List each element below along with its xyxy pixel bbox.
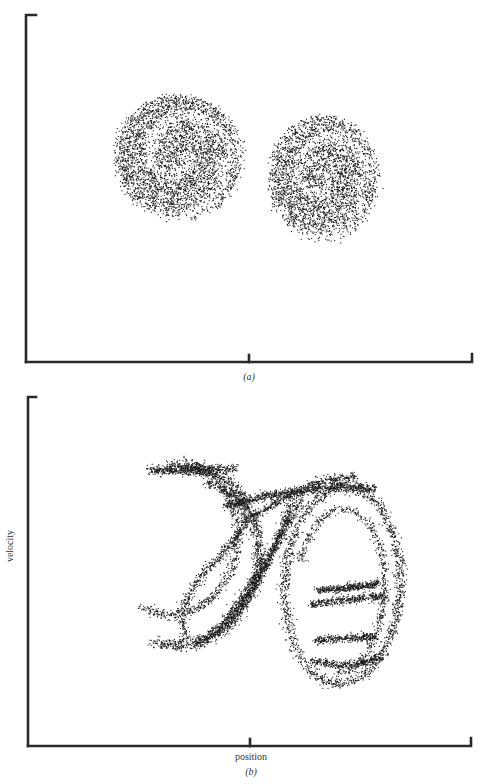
data-point-a: [285, 195, 286, 196]
data-point-a: [193, 114, 194, 115]
data-point-a: [349, 212, 350, 213]
data-point-b: [230, 510, 231, 511]
data-point-a: [162, 94, 163, 95]
data-point-b: [187, 463, 188, 464]
data-point-b: [336, 601, 337, 602]
data-point-a: [171, 161, 172, 162]
data-point-b: [222, 625, 223, 626]
data-point-b: [359, 582, 360, 583]
data-point-b: [262, 544, 263, 545]
data-point-b: [286, 495, 287, 496]
data-point-b: [299, 558, 300, 559]
data-point-b: [385, 615, 386, 616]
data-point-b: [229, 547, 230, 548]
data-point-a: [163, 155, 164, 156]
data-point-a: [163, 157, 164, 158]
data-point-b: [253, 583, 254, 584]
data-point-b: [295, 656, 296, 657]
data-point-a: [328, 143, 329, 144]
data-point-a: [201, 147, 202, 148]
data-point-a: [143, 206, 144, 207]
data-point-a: [194, 182, 195, 183]
data-point-b: [303, 668, 304, 669]
data-point-b: [308, 506, 309, 507]
data-point-a: [306, 192, 307, 193]
data-point-a: [272, 193, 273, 194]
data-point-b: [337, 592, 338, 593]
data-point-a: [343, 124, 344, 125]
data-point-a: [350, 221, 351, 222]
data-point-a: [227, 144, 228, 145]
data-point-a: [115, 138, 116, 139]
data-point-a: [348, 173, 349, 174]
data-point-a: [277, 163, 278, 164]
data-point-a: [155, 191, 156, 192]
data-point-a: [121, 148, 122, 149]
data-point-a: [202, 211, 203, 212]
data-point-b: [326, 514, 327, 515]
data-point-a: [372, 199, 373, 200]
data-point-b: [343, 478, 344, 479]
data-point-b: [368, 635, 369, 636]
data-point-b: [196, 476, 197, 477]
data-point-a: [189, 175, 190, 176]
data-point-b: [355, 669, 356, 670]
data-point-a: [304, 123, 305, 124]
data-point-a: [274, 173, 275, 174]
data-point-b: [357, 478, 358, 479]
data-point-b: [362, 599, 363, 600]
data-point-b: [230, 579, 231, 580]
data-point-b: [359, 490, 360, 491]
data-point-a: [278, 180, 279, 181]
data-point-a: [199, 121, 200, 122]
data-point-a: [149, 188, 150, 189]
data-point-b: [375, 550, 376, 551]
data-point-b: [237, 615, 238, 616]
data-point-a: [375, 179, 376, 180]
data-point-a: [138, 129, 139, 130]
data-point-b: [235, 545, 236, 546]
data-point-a: [335, 202, 336, 203]
data-point-a: [291, 206, 292, 207]
data-point-a: [336, 193, 337, 194]
data-point-a: [294, 154, 295, 155]
data-point-a: [220, 109, 221, 110]
data-point-a: [197, 105, 198, 106]
data-point-b: [399, 557, 400, 558]
data-point-b: [152, 471, 153, 472]
data-point-b: [275, 504, 276, 505]
data-point-b: [352, 601, 353, 602]
data-point-b: [289, 574, 290, 575]
data-point-a: [350, 179, 351, 180]
data-point-b: [224, 510, 225, 511]
data-point-a: [121, 152, 122, 153]
data-point-b: [160, 611, 161, 612]
data-point-b: [254, 592, 255, 593]
data-point-b: [186, 596, 187, 597]
data-point-a: [365, 159, 366, 160]
data-point-a: [219, 144, 220, 145]
data-point-b: [266, 566, 267, 567]
data-point-a: [163, 126, 164, 127]
data-point-a: [137, 159, 138, 160]
data-point-a: [137, 203, 138, 204]
data-point-b: [227, 548, 228, 549]
data-point-a: [195, 216, 196, 217]
data-point-b: [240, 504, 241, 505]
data-point-a: [303, 216, 304, 217]
data-point-a: [140, 152, 141, 153]
data-point-b: [178, 641, 179, 642]
data-point-b: [183, 608, 184, 609]
data-point-b: [404, 597, 405, 598]
data-point-a: [116, 132, 117, 133]
data-point-b: [184, 631, 185, 632]
data-point-a: [329, 187, 330, 188]
data-point-b: [378, 504, 379, 505]
data-point-b: [182, 470, 183, 471]
data-point-a: [291, 213, 292, 214]
data-point-b: [351, 637, 352, 638]
data-point-b: [201, 604, 202, 605]
data-point-b: [232, 618, 233, 619]
data-point-b: [245, 588, 246, 589]
data-point-b: [376, 599, 377, 600]
